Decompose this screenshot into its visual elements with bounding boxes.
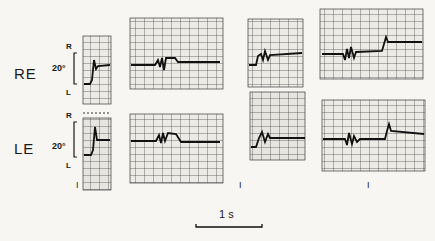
panel-4-re	[320, 9, 423, 79]
panel-1-le	[83, 113, 111, 190]
panel-2-re	[130, 18, 223, 89]
panel-4-le	[322, 100, 425, 171]
panel-2-le	[130, 114, 223, 183]
scale-bracket-re	[74, 53, 77, 84]
panel-3-re	[248, 19, 303, 87]
recording-figure	[0, 0, 435, 241]
panel-3-le	[250, 92, 305, 160]
time-scale-bar	[196, 224, 262, 227]
scale-bracket-le	[74, 122, 77, 157]
panel-1-re	[83, 36, 111, 104]
